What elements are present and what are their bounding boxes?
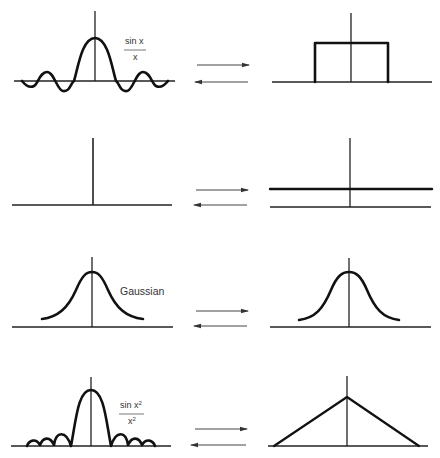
row-2-constant-plot [270, 138, 432, 207]
row-4-transform-arrows [191, 429, 247, 445]
row-3-transform-arrows [194, 311, 248, 326]
gaussian-label: Gaussian [120, 285, 165, 297]
sinc-label-denominator: x [133, 52, 138, 62]
row-1-transform-arrows [195, 65, 249, 82]
fourier-pairs-diagram: sin x x Gaussian [0, 0, 440, 458]
row-3-gaussian-transform-plot [270, 258, 431, 327]
row-1-sinc-plot: sin x x [14, 11, 175, 91]
row-2-transform-arrows [194, 190, 248, 205]
row-4-sinc-squared-plot: sin x2 x2 [11, 377, 171, 446]
row-1-rect-plot [272, 13, 432, 82]
sinc-squared-label-numerator: sin x2 [120, 400, 143, 410]
sinc-squared-label-denominator: x2 [128, 416, 137, 426]
row-3-gaussian-plot: Gaussian [12, 257, 173, 327]
row-2-delta-plot [12, 138, 172, 205]
row-4-triangle-plot [268, 376, 428, 446]
sinc-label-numerator: sin x [125, 36, 144, 46]
